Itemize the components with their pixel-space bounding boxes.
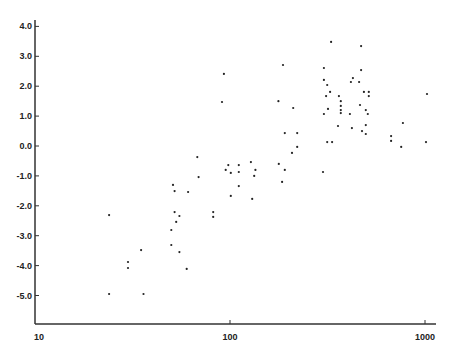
data-point — [326, 84, 328, 86]
data-point — [198, 176, 200, 178]
data-point — [127, 261, 129, 263]
data-point — [400, 146, 402, 148]
data-point — [365, 109, 367, 111]
data-point — [175, 221, 177, 223]
data-point — [250, 161, 252, 163]
x-tick-label: 100 — [222, 332, 237, 342]
data-point — [337, 125, 339, 127]
data-point — [291, 152, 293, 154]
data-point — [212, 216, 214, 218]
data-point — [230, 172, 232, 174]
data-point — [323, 79, 325, 81]
data-point — [402, 122, 404, 124]
data-point — [360, 69, 362, 71]
data-point — [329, 91, 331, 93]
data-point — [359, 104, 361, 106]
data-point — [292, 107, 294, 109]
data-point — [338, 95, 340, 97]
data-point — [238, 185, 240, 187]
data-point — [323, 113, 325, 115]
y-tick-label: -4.0 — [16, 261, 32, 271]
data-point — [368, 95, 370, 97]
data-point — [127, 267, 129, 269]
y-tick-label: -1.0 — [16, 171, 32, 181]
data-point — [284, 169, 286, 171]
data-point — [178, 251, 180, 253]
data-point — [186, 268, 188, 270]
scatter-chart: 4.03.02.01.00.0-1.0-2.0-3.0-4.0-5.0 1010… — [0, 0, 451, 359]
data-point — [340, 109, 342, 111]
data-point — [254, 169, 256, 171]
data-point — [251, 198, 253, 200]
y-tick-label: 2.0 — [19, 81, 32, 91]
data-point — [326, 141, 328, 143]
data-point — [358, 81, 360, 83]
x-tick-label: 1000 — [415, 332, 435, 342]
data-point — [174, 190, 176, 192]
data-point — [178, 215, 180, 217]
y-tick-label: 0.0 — [19, 141, 32, 151]
data-point — [284, 132, 286, 134]
data-point — [349, 113, 351, 115]
data-point — [360, 45, 362, 47]
data-point — [212, 211, 214, 213]
data-point — [296, 146, 298, 148]
data-point — [340, 105, 342, 107]
data-point — [238, 164, 240, 166]
data-point — [223, 73, 225, 75]
data-point — [238, 171, 240, 173]
data-point — [390, 135, 392, 137]
data-point — [352, 77, 354, 79]
data-point — [227, 164, 229, 166]
data-point — [196, 156, 198, 158]
data-point — [350, 81, 352, 83]
y-tick-label: 3.0 — [19, 51, 32, 61]
data-point — [351, 127, 353, 129]
data-point — [322, 171, 324, 173]
data-point — [282, 64, 284, 66]
data-point — [108, 214, 110, 216]
data-point — [365, 124, 367, 126]
data-point — [330, 41, 332, 43]
x-tick-label: 10 — [34, 332, 44, 342]
data-point — [277, 100, 279, 102]
y-tick-label: -5.0 — [16, 291, 32, 301]
y-tick-label: 4.0 — [19, 21, 32, 31]
data-point — [296, 132, 298, 134]
data-point — [363, 91, 365, 93]
data-point — [174, 211, 176, 213]
axes — [35, 20, 436, 324]
data-point — [340, 100, 342, 102]
data-point — [225, 169, 227, 171]
data-point — [187, 191, 189, 193]
data-point — [253, 175, 255, 177]
data-point — [323, 67, 325, 69]
data-point — [361, 130, 363, 132]
data-point — [278, 163, 280, 165]
data-point — [368, 91, 370, 93]
y-tick-label: -3.0 — [16, 231, 32, 241]
data-point — [325, 95, 327, 97]
data-point — [172, 184, 174, 186]
data-point — [142, 293, 144, 295]
data-point — [327, 108, 329, 110]
y-tick-label: 1.0 — [19, 111, 32, 121]
data-point — [281, 181, 283, 183]
data-point — [108, 293, 110, 295]
data-point — [367, 113, 369, 115]
data-point — [425, 141, 427, 143]
data-point — [340, 112, 342, 114]
data-point — [170, 229, 172, 231]
data-point — [390, 140, 392, 142]
data-point — [221, 101, 223, 103]
data-point — [230, 195, 232, 197]
data-point — [170, 244, 172, 246]
data-point — [331, 141, 333, 143]
data-point — [140, 249, 142, 251]
data-point — [365, 133, 367, 135]
data-point — [426, 93, 428, 95]
y-tick-label: -2.0 — [16, 201, 32, 211]
data-points — [108, 41, 428, 295]
